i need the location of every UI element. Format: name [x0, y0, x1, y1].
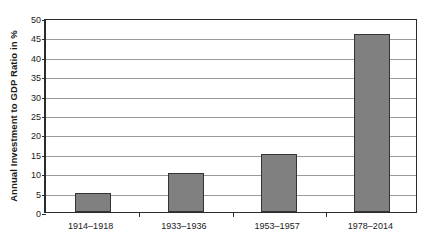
y-axis-tick-label: 25 [7, 113, 41, 122]
bar [75, 193, 111, 212]
x-axis-category-label: 1953–1957 [231, 219, 324, 233]
y-axis-tick-mark [42, 20, 46, 21]
y-axis-tick-label: 0 [7, 210, 41, 219]
y-axis-tick-mark [42, 117, 46, 118]
y-axis-tick-label: 10 [7, 171, 41, 180]
x-axis-tick-mark [139, 212, 140, 217]
x-axis-tick-mark [233, 212, 234, 217]
y-axis-tick-mark [42, 98, 46, 99]
y-axis-tick-label: 20 [7, 132, 41, 141]
y-axis-tick-label: 15 [7, 151, 41, 160]
x-axis-category-label: 1914–1918 [44, 219, 137, 233]
y-axis-tick-mark [42, 136, 46, 137]
y-axis-tick-label: 35 [7, 74, 41, 83]
bar [354, 34, 390, 212]
y-axis-tick-mark [42, 175, 46, 176]
bar [168, 173, 204, 212]
y-axis-tick-mark [42, 195, 46, 196]
x-axis-category-label: 1933–1936 [137, 219, 230, 233]
bar-chart: Annual Investment to GDP Ratio in % 0510… [0, 0, 442, 251]
y-axis-tick-mark [42, 59, 46, 60]
y-axis-tick-mark [42, 39, 46, 40]
bar [261, 154, 297, 212]
y-axis-tick-label: 40 [7, 54, 41, 63]
y-axis-tick-label: 50 [7, 16, 41, 25]
y-axis-tick-mark [42, 78, 46, 79]
x-axis-tick-mark [326, 212, 327, 217]
y-axis-tick-mark [42, 214, 46, 215]
y-axis-tick-label: 45 [7, 35, 41, 44]
plot-area: 05101520253035404550 [44, 19, 417, 213]
y-axis-tick-label: 30 [7, 93, 41, 102]
y-axis-tick-mark [42, 156, 46, 157]
x-axis-category-label: 1978–2014 [324, 219, 417, 233]
y-axis-tick-label: 5 [7, 190, 41, 199]
